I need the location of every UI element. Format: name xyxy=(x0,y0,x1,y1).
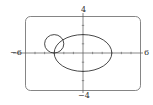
y-min-label: −4 xyxy=(78,92,90,100)
plot-area xyxy=(0,0,153,105)
y-max-label: 4 xyxy=(81,6,86,14)
x-max-label: 6 xyxy=(144,49,149,57)
x-min-label: −6 xyxy=(10,49,22,57)
